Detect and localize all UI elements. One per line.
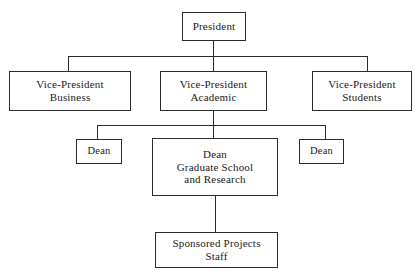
node-vice-president-students: Vice-President Students <box>312 71 412 111</box>
connector-bus-to-vp-business <box>68 56 69 72</box>
connector-bus-to-vp-academic <box>213 56 214 72</box>
node-president-line-1: President <box>193 20 236 33</box>
node-vice-president-business: Vice-President Business <box>9 71 131 111</box>
node-dean-right-line-1: Dean <box>310 145 333 157</box>
connector-bus-vice-presidents <box>68 56 368 57</box>
node-vice-president-academic: Vice-President Academic <box>160 71 267 111</box>
connector-bus-to-dean-right <box>325 125 326 140</box>
node-graduate-school-line-2: Graduate School <box>177 161 254 174</box>
connector-president-to-bus <box>213 41 214 57</box>
node-sponsored-projects-line-2: Staff <box>205 250 227 263</box>
node-vice-president-academic-line-2: Academic <box>190 91 236 104</box>
node-vice-president-business-line-1: Vice-President <box>36 78 104 91</box>
connector-bus-to-dean-left <box>97 125 98 140</box>
node-dean-graduate-school-and-research: Dean Graduate School and Research <box>152 138 278 196</box>
connector-graduate-school-to-sponsored-projects <box>215 196 216 233</box>
node-vice-president-students-line-1: Vice-President <box>328 78 396 91</box>
node-graduate-school-line-1: Dean <box>203 148 227 161</box>
node-dean-left-line-1: Dean <box>88 145 111 157</box>
node-vice-president-academic-line-1: Vice-President <box>180 78 248 91</box>
connector-vp-academic-to-bus <box>213 111 214 126</box>
org-chart: President Vice-President Business Vice-P… <box>0 0 420 277</box>
node-vice-president-business-line-2: Business <box>50 91 91 104</box>
node-sponsored-projects-staff: Sponsored Projects Staff <box>155 232 278 268</box>
connector-bus-to-graduate-school <box>213 125 214 139</box>
node-sponsored-projects-line-1: Sponsored Projects <box>172 237 260 250</box>
connector-bus-to-vp-students <box>367 56 368 72</box>
node-dean-left: Dean <box>76 139 122 164</box>
node-vice-president-students-line-2: Students <box>342 91 382 104</box>
node-president: President <box>182 12 246 41</box>
node-graduate-school-line-3: and Research <box>184 173 245 186</box>
node-dean-right: Dean <box>299 139 344 164</box>
connector-bus-deans <box>97 125 326 126</box>
